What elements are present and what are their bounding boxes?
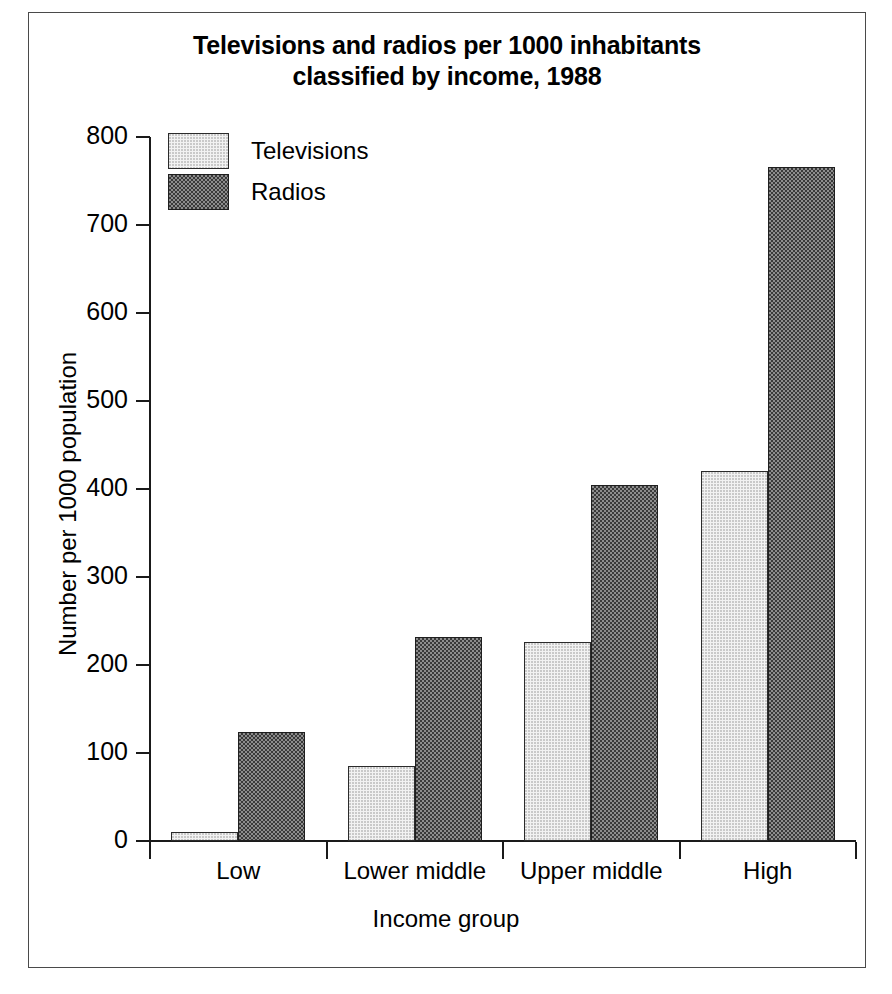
bar-radios-upper-middle: [591, 485, 658, 841]
y-tick: [136, 576, 150, 578]
y-tick: [136, 312, 150, 314]
y-tick: [136, 224, 150, 226]
x-axis-title: Income group: [0, 905, 892, 933]
y-tick: [136, 136, 150, 138]
y-tick: [136, 840, 150, 842]
x-axis-category-label: Lower middle: [327, 857, 504, 885]
y-tick: [136, 752, 150, 754]
chart-legend: Televisions Radios: [168, 131, 368, 213]
bar-radios-low: [238, 732, 305, 841]
legend-swatch-radios-icon: [168, 174, 229, 210]
x-axis-category-label: Low: [150, 857, 327, 885]
bar-televisions-high: [701, 471, 768, 841]
y-tick: [136, 664, 150, 666]
plot-area: 0100200300400500600700800 LowLower middl…: [0, 0, 892, 994]
legend-swatch-televisions-icon: [168, 133, 229, 169]
chart-page: Televisions and radios per 1000 inhabita…: [0, 0, 892, 994]
bar-televisions-upper-middle: [524, 642, 591, 841]
bar-televisions-lower-middle: [348, 766, 415, 841]
legend-label-radios: Radios: [251, 178, 326, 206]
y-tick: [136, 400, 150, 402]
x-axis-category-label: High: [680, 857, 857, 885]
bar-televisions-low: [171, 832, 238, 841]
bar-radios-lower-middle: [415, 637, 482, 841]
bar-radios-high: [768, 167, 835, 841]
y-tick: [136, 488, 150, 490]
legend-label-televisions: Televisions: [251, 137, 368, 165]
legend-item-radios: Radios: [168, 172, 368, 211]
y-axis-title: Number per 1000 population: [54, 339, 82, 669]
legend-item-televisions: Televisions: [168, 131, 368, 170]
x-axis-category-label: Upper middle: [503, 857, 680, 885]
